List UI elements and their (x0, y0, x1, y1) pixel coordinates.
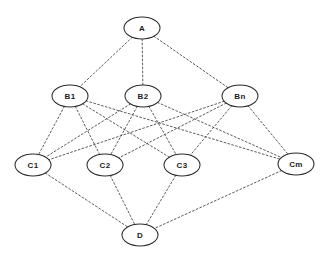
node-label-c3: C3 (176, 161, 187, 170)
node-label-b1: B1 (64, 92, 75, 101)
node-b1[interactable]: B1 (52, 85, 88, 107)
node-c1[interactable]: C1 (15, 154, 51, 176)
edge-bn-c1 (49, 101, 224, 159)
edge-b2-cm (158, 102, 282, 157)
edge-b2-c2 (111, 106, 138, 154)
node-label-c1: C1 (27, 161, 38, 170)
node-label-d: D (137, 231, 143, 240)
node-label-c2: C2 (99, 161, 110, 170)
node-a[interactable]: A (124, 17, 160, 39)
edge-b1-c3 (83, 104, 170, 157)
node-c3[interactable]: C3 (164, 154, 200, 176)
edge-c2-d (110, 176, 134, 225)
node-label-a: A (139, 24, 145, 33)
edge-b1-c1 (39, 106, 65, 154)
edge-a-bn (154, 36, 228, 88)
node-d[interactable]: D (122, 224, 158, 246)
node-bn[interactable]: Bn (222, 85, 258, 107)
edge-c1-d (45, 173, 127, 227)
node-b2[interactable]: B2 (125, 85, 161, 107)
edge-bn-cm (248, 106, 288, 154)
node-c2[interactable]: C2 (87, 154, 123, 176)
edge-bn-c3 (190, 106, 232, 155)
graph-svg: AB1B2BnC1C2C3CmD (0, 0, 325, 254)
edge-a-b2 (142, 39, 143, 85)
diagram-canvas: AB1B2BnC1C2C3CmD (0, 0, 325, 254)
edges-layer (39, 36, 288, 228)
node-label-bn: Bn (234, 92, 245, 101)
edge-c3-d (146, 175, 176, 224)
node-label-b2: B2 (137, 92, 148, 101)
edge-a-b1 (80, 37, 132, 87)
node-cm[interactable]: Cm (278, 153, 314, 175)
node-label-cm: Cm (289, 160, 303, 169)
edge-b2-c1 (46, 104, 131, 157)
